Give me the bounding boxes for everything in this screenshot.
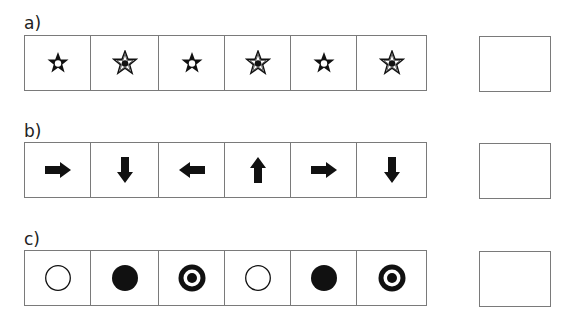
star-outline-with-black-center-icon — [245, 50, 271, 76]
row-b-cell-3 — [159, 143, 225, 197]
circle-outline-icon — [244, 264, 272, 292]
star-solid-with-white-center-icon — [180, 51, 204, 75]
row-b-cell-2 — [91, 143, 159, 197]
row-b-label: b) — [24, 122, 41, 140]
row-a-cell-5 — [291, 36, 357, 90]
star-solid-with-white-center-icon — [312, 51, 336, 75]
row-a-sequence — [24, 35, 427, 91]
row-b-cell-1 — [25, 143, 91, 197]
circle-target-icon — [378, 264, 406, 292]
row-c-cell-6 — [357, 251, 426, 305]
row-c-cell-4 — [225, 251, 291, 305]
row-a-cell-1 — [25, 36, 91, 90]
star-outline-with-black-center-icon — [112, 50, 138, 76]
row-a-cell-6 — [357, 36, 426, 90]
arrow-down-icon — [383, 156, 401, 184]
row-a-answer-box[interactable] — [479, 36, 551, 92]
arrow-right-icon — [310, 161, 338, 179]
circle-target-icon — [178, 264, 206, 292]
arrow-left-icon — [178, 161, 206, 179]
arrow-up-icon — [249, 156, 267, 184]
row-b-cell-4 — [225, 143, 291, 197]
row-b-cell-6 — [357, 143, 426, 197]
row-a-cell-3 — [159, 36, 225, 90]
row-a-label: a) — [24, 14, 41, 32]
star-solid-with-white-center-icon — [46, 51, 70, 75]
row-b-sequence — [24, 142, 427, 198]
row-c-sequence — [24, 250, 427, 306]
row-b-cell-5 — [291, 143, 357, 197]
circle-filled-icon — [111, 264, 139, 292]
row-a-cell-2 — [91, 36, 159, 90]
row-a-cell-4 — [225, 36, 291, 90]
row-c-answer-box[interactable] — [479, 251, 551, 307]
circle-outline-icon — [44, 264, 72, 292]
circle-filled-icon — [310, 264, 338, 292]
row-c-label: c) — [24, 230, 40, 248]
row-c-cell-3 — [159, 251, 225, 305]
arrow-right-icon — [44, 161, 72, 179]
row-c-cell-5 — [291, 251, 357, 305]
row-c-cell-1 — [25, 251, 91, 305]
star-outline-with-black-center-icon — [379, 50, 405, 76]
row-c-cell-2 — [91, 251, 159, 305]
arrow-down-icon — [116, 156, 134, 184]
row-b-answer-box[interactable] — [479, 143, 551, 199]
